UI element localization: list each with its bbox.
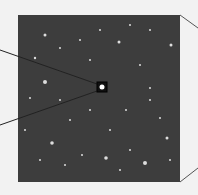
star [59, 47, 61, 49]
diagram-overlay [0, 0, 198, 195]
star [149, 99, 151, 101]
star [69, 119, 71, 121]
star [89, 59, 91, 61]
star [50, 141, 54, 145]
star [43, 80, 47, 84]
connector-line [0, 50, 97, 84]
star [44, 34, 47, 37]
star [34, 57, 36, 59]
star [143, 161, 147, 165]
star [24, 129, 26, 131]
star [166, 137, 169, 140]
star [129, 24, 131, 26]
target-star [100, 85, 105, 90]
star [89, 109, 91, 111]
star [149, 29, 151, 31]
star [125, 109, 127, 111]
star [81, 154, 83, 156]
star [129, 149, 131, 151]
star [119, 169, 121, 171]
star [29, 97, 31, 99]
star [139, 64, 141, 66]
star [39, 159, 41, 161]
star [169, 159, 171, 161]
star [99, 29, 101, 31]
star [79, 39, 81, 41]
star [109, 129, 111, 131]
connector-line [180, 168, 198, 182]
star [149, 87, 151, 89]
star [104, 156, 108, 160]
star [59, 99, 61, 101]
star [118, 41, 121, 44]
star [64, 164, 66, 166]
star [159, 117, 161, 119]
connector-line [0, 91, 97, 125]
star [170, 44, 173, 47]
connector-line [180, 15, 198, 28]
